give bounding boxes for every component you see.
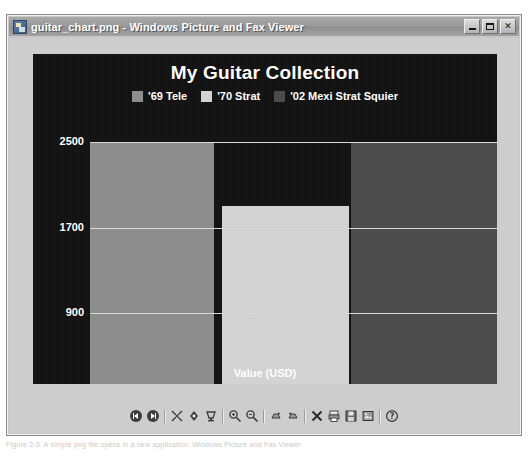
legend-swatch: [201, 91, 212, 102]
window-controls: ✕: [464, 19, 517, 34]
chart-bar: [90, 142, 214, 384]
rotate-clockwise-button[interactable]: [268, 408, 285, 425]
legend-label: '69 Tele: [148, 90, 187, 102]
maximize-icon: [486, 23, 494, 30]
chart-image: 25001700900100 My Guitar Collection '69 …: [33, 54, 497, 384]
legend-swatch: [132, 91, 143, 102]
svg-text:?: ?: [390, 412, 395, 421]
next-icon: [146, 409, 160, 423]
toolbar-separator: [377, 409, 384, 424]
toolbar-separator: [261, 409, 268, 424]
previous-image-button[interactable]: [128, 408, 145, 425]
legend-label: '02 Mexi Strat Squier: [290, 90, 398, 102]
picture-fax-viewer-window: guitar_chart.png - Windows Picture and F…: [6, 14, 522, 436]
start-slideshow-button[interactable]: [203, 408, 220, 425]
window-title-bar[interactable]: guitar_chart.png - Windows Picture and F…: [9, 17, 519, 36]
chart-bar: [222, 206, 349, 384]
best-fit-button[interactable]: [169, 408, 186, 425]
legend-item: '02 Mexi Strat Squier: [274, 90, 398, 102]
chart-legend: '69 Tele'70 Strat'02 Mexi Strat Squier: [33, 90, 497, 102]
image-file-icon: [13, 20, 27, 34]
chart-gridline: [90, 142, 497, 143]
save-icon: [344, 409, 358, 423]
slideshow-icon: [204, 409, 218, 423]
zoom-out-button[interactable]: [244, 408, 261, 425]
actual-size-button[interactable]: [186, 408, 203, 425]
delete-button[interactable]: [309, 408, 326, 425]
print-button[interactable]: [326, 408, 343, 425]
edit-image-icon: [361, 409, 375, 423]
rotate-cw-icon: [269, 409, 283, 423]
chart-xaxis-label: Value (USD): [33, 367, 497, 379]
toolbar-separator: [302, 409, 309, 424]
legend-label: '70 Strat: [217, 90, 260, 102]
viewer-client-area: 25001700900100 My Guitar Collection '69 …: [9, 38, 519, 433]
maximize-button[interactable]: [482, 19, 498, 34]
help-button[interactable]: ?: [384, 408, 401, 425]
close-icon: ✕: [504, 22, 512, 31]
rotate-ccw-icon: [286, 409, 300, 423]
rotate-counterclockwise-button[interactable]: [285, 408, 302, 425]
best-fit-icon: [170, 409, 184, 423]
chart-ytick-label: 900: [33, 306, 84, 318]
chart-gridline: [90, 228, 497, 229]
chart-bar: [351, 142, 497, 384]
zoom-out-icon: [245, 409, 259, 423]
screenshot-root: guitar_chart.png - Windows Picture and F…: [0, 0, 528, 458]
delete-x-icon: [310, 409, 324, 423]
chart-gridline: [90, 313, 497, 314]
figure-caption: Figure 2-3. A simple png file opens in a…: [6, 441, 406, 448]
close-button[interactable]: ✕: [500, 19, 516, 34]
zoom-in-icon: [228, 409, 242, 423]
minimize-button[interactable]: [464, 19, 480, 34]
next-image-button[interactable]: [145, 408, 162, 425]
previous-icon: [129, 409, 143, 423]
toolbar-separator: [220, 409, 227, 424]
minimize-icon: [469, 28, 476, 30]
legend-swatch: [274, 91, 285, 102]
actual-size-icon: [187, 409, 201, 423]
chart-ytick-label: 1700: [33, 221, 84, 233]
chart-ytick-label: 2500: [33, 135, 84, 147]
open-for-editing-button[interactable]: [360, 408, 377, 425]
viewer-toolbar: ?: [9, 405, 519, 427]
legend-item: '69 Tele: [132, 90, 187, 102]
legend-item: '70 Strat: [201, 90, 260, 102]
help-icon: ?: [385, 409, 399, 423]
zoom-in-button[interactable]: [227, 408, 244, 425]
chart-plot-area: 25001700900100: [33, 54, 497, 384]
toolbar-separator: [162, 409, 169, 424]
print-icon: [327, 409, 341, 423]
save-as-button[interactable]: [343, 408, 360, 425]
chart-title: My Guitar Collection: [33, 62, 497, 84]
window-title: guitar_chart.png - Windows Picture and F…: [31, 21, 464, 33]
